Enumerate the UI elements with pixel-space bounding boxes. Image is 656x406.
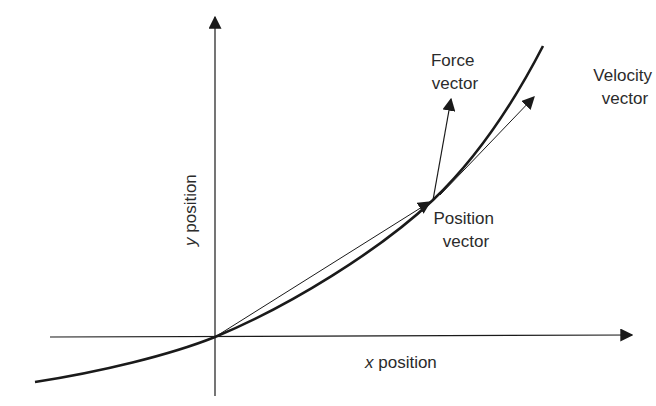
- x-axis-label: x position: [364, 353, 437, 372]
- velocity-vector-arrow: [440, 97, 534, 195]
- force-vector-label: Force vector: [431, 51, 479, 93]
- velocity-vector-label: Velocity vector: [593, 66, 656, 108]
- y-axis-label: y position: [181, 174, 200, 247]
- x-axis: [50, 335, 632, 337]
- position-vector-label: Position vector: [433, 209, 498, 251]
- vector-diagram: Force vector Velocity vector Position ve…: [0, 0, 656, 406]
- position-vector-arrow: [215, 202, 430, 337]
